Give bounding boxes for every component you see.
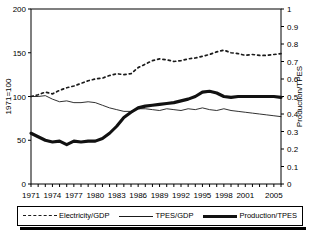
x-axis-tick-label: 1971 [22, 191, 40, 200]
y-axis-tick-label: 0 [22, 180, 27, 189]
y2-axis-tick-label: 0 [287, 180, 292, 189]
line-chart-plot: 05010015020000.10.20.30.40.50.60.70.80.9… [0, 0, 311, 200]
y2-axis-title: Production/TPES [295, 66, 304, 127]
legend-swatch-dashed-icon [23, 213, 57, 219]
x-axis-tick-label: 1992 [172, 191, 190, 200]
legend-label-production-tpes: Production/TPES [239, 212, 297, 220]
x-axis-tick-label: 1977 [65, 191, 83, 200]
y2-axis-tick-label: 1 [287, 5, 292, 14]
y-axis-tick-label: 50 [17, 136, 26, 145]
chart-legend: Electricity/GDP TPES/GDP Production/TPES [17, 206, 303, 226]
y2-axis-tick-label: 0.2 [287, 145, 299, 154]
legend-swatch-thin-icon [119, 213, 153, 219]
y2-axis-tick-label: 0.9 [287, 23, 299, 32]
x-axis-tick-label: 1983 [108, 191, 126, 200]
x-axis-tick-label: 2005 [265, 191, 283, 200]
x-axis-tick-label: 1986 [129, 191, 147, 200]
y2-axis-tick-label: 0.3 [287, 128, 299, 137]
legend-item-tpes-gdp: TPES/GDP [119, 212, 193, 220]
y2-axis-tick-label: 0.1 [287, 163, 299, 172]
chart-container: 05010015020000.10.20.30.40.50.60.70.80.9… [0, 0, 311, 233]
y-axis-tick-label: 150 [13, 49, 27, 58]
legend-item-electricity-gdp: Electricity/GDP [23, 212, 109, 220]
legend-shadow [20, 227, 306, 230]
legend-swatch-thick-icon [203, 213, 237, 219]
x-axis-tick-label: 1995 [194, 191, 212, 200]
x-axis-tick-label: 1998 [215, 191, 233, 200]
legend-item-production-tpes: Production/TPES [203, 212, 297, 220]
x-axis-tick-label: 1989 [151, 191, 169, 200]
y2-axis-tick-label: 0.8 [287, 40, 299, 49]
legend-label-electricity-gdp: Electricity/GDP [59, 212, 109, 220]
legend-label-tpes-gdp: TPES/GDP [155, 212, 193, 220]
y-axis-tick-label: 200 [13, 5, 27, 14]
y2-axis-tick-label: 0.7 [287, 58, 299, 67]
x-axis-tick-label: 1974 [44, 191, 62, 200]
x-axis-tick-label: 1980 [86, 191, 104, 200]
y-axis-tick-label: 100 [13, 93, 27, 102]
x-axis-tick-label: 2001 [236, 191, 254, 200]
y-axis-title: 1971=100 [4, 78, 13, 114]
